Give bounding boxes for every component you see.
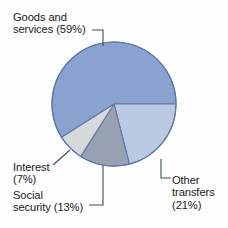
pie-label-goods-and-services: Goods and services (59%) [13,11,86,36]
pie-label-goods-line1: Goods and [13,11,86,23]
pie-label-other-line2: transfers [172,186,215,198]
pie-label-other-line1: Other [172,174,215,186]
pie-chart-figure: Goods and services (59%) Interest (7%) S… [0,0,228,228]
leader-line-other-transfers [161,159,171,178]
pie-label-interest-line2: (7%) [13,173,50,185]
pie-label-goods-line2: services (59%) [13,23,86,35]
pie-label-other-line3: (21%) [172,199,215,211]
pie-label-social-line1: Social [13,189,83,201]
leader-line-interest [53,150,70,165]
pie-label-social-line2: security (13%) [13,201,83,213]
pie-label-social-security: Social security (13%) [13,189,83,214]
pie-label-other-transfers: Other transfers (21%) [172,174,215,211]
pie-label-interest: Interest (7%) [13,161,50,186]
leader-line-social-security [89,166,103,205]
pie-label-interest-line1: Interest [13,161,50,173]
